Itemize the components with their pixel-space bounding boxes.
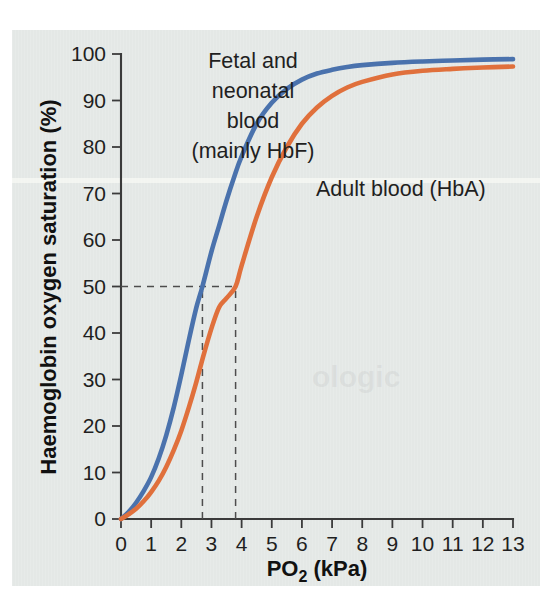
y-tick-label-30: 30 (83, 368, 106, 391)
adult-blood-label-line-0: Adult blood (HbA) (316, 177, 486, 201)
x-axis-tick-labels: 012345678910111213 (115, 532, 525, 555)
x-tick-label-11: 11 (442, 532, 464, 555)
y-axis-tick-labels: 0102030405060708090100 (71, 42, 106, 530)
adult-blood-label: Adult blood (HbA) (316, 177, 486, 201)
x-tick-label-10: 10 (411, 532, 434, 555)
figure-root: ologic 0102030405060708090100 0123456789… (0, 0, 560, 610)
x-tick-label-0: 0 (115, 532, 127, 555)
y-tick-label-40: 40 (83, 321, 106, 344)
y-axis-ticks (112, 54, 121, 519)
adult-blood-curve (121, 67, 513, 519)
fetal-blood-label: Fetal andneonatalblood(mainly HbF) (191, 49, 314, 163)
y-tick-label-100: 100 (71, 42, 106, 65)
curve-group (121, 59, 513, 519)
x-tick-label-1: 1 (145, 532, 157, 555)
x-tick-label-12: 12 (471, 532, 494, 555)
x-tick-label-3: 3 (206, 532, 218, 555)
x-tick-label-4: 4 (236, 532, 248, 555)
x-tick-label-5: 5 (266, 532, 278, 555)
x-tick-label-6: 6 (296, 532, 308, 555)
x-tick-label-9: 9 (387, 532, 399, 555)
x-axis-ticks (121, 519, 513, 528)
x-axis-title: PO2 (kPa) (267, 556, 368, 585)
oxygen-dissociation-chart: 0102030405060708090100 01234567891011121… (0, 0, 560, 610)
x-tick-label-7: 7 (326, 532, 338, 555)
x-tick-label-13: 13 (501, 532, 524, 555)
x-tick-label-8: 8 (356, 532, 368, 555)
x-axis-title-unit: (kPa) (307, 556, 367, 581)
y-tick-label-90: 90 (83, 89, 106, 112)
fetal-blood-label-line-2: blood (227, 109, 280, 133)
x-axis-title-base: PO (267, 556, 299, 581)
y-tick-label-20: 20 (83, 414, 106, 437)
fetal-blood-curve (121, 59, 513, 519)
y-tick-label-60: 60 (83, 228, 106, 251)
fetal-blood-label-line-0: Fetal and (208, 49, 298, 73)
fetal-blood-label-line-1: neonatal (212, 79, 295, 103)
y-tick-label-10: 10 (83, 461, 106, 484)
y-tick-label-50: 50 (83, 275, 106, 298)
y-tick-label-80: 80 (83, 135, 106, 158)
y-tick-label-0: 0 (94, 507, 106, 530)
x-tick-label-2: 2 (175, 532, 187, 555)
p50-guide-lines (121, 287, 236, 520)
fetal-blood-label-line-3: (mainly HbF) (191, 139, 314, 163)
x-axis-title-subscript: 2 (298, 568, 307, 585)
y-tick-label-70: 70 (83, 182, 106, 205)
y-axis-title: Haemoglobin oxygen saturation (%) (36, 99, 61, 474)
